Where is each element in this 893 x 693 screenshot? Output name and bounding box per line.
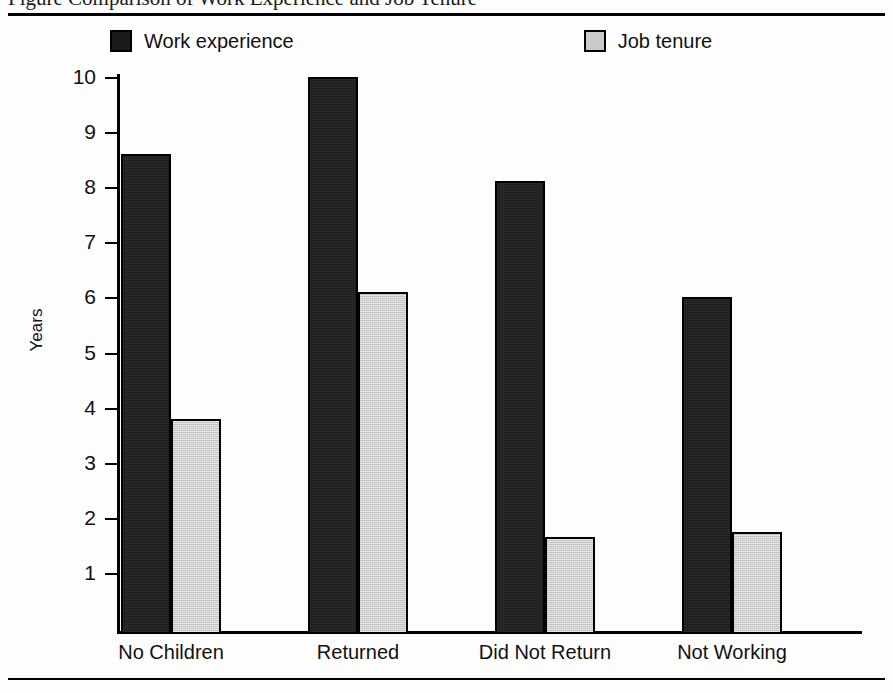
x-axis-label-not-working: Not Working [642, 641, 822, 664]
y-tick-10: 10 [45, 77, 118, 79]
x-axis-label-no-children: No Children [81, 641, 261, 664]
y-tick-label: 8 [56, 176, 96, 197]
y-tick-mark [105, 518, 118, 520]
bar-job-tenure [732, 532, 782, 634]
x-axis-label-returned: Returned [268, 641, 448, 664]
y-tick-label: 6 [56, 286, 96, 307]
y-tick-mark [105, 573, 118, 575]
y-tick-label: 5 [56, 342, 96, 363]
y-tick-label: 9 [56, 121, 96, 142]
bar-work-experience [121, 154, 171, 634]
y-tick-mark [105, 353, 118, 355]
y-tick-label: 4 [56, 397, 96, 418]
figure-page: Figure Comparison of Work Experience and… [0, 0, 893, 693]
y-tick-1: 1 [45, 573, 118, 575]
y-tick-mark [105, 132, 118, 134]
y-tick-7: 7 [45, 242, 118, 244]
y-tick-2: 2 [45, 518, 118, 520]
y-tick-6: 6 [45, 297, 118, 299]
y-tick-mark [105, 187, 118, 189]
y-tick-3: 3 [45, 463, 118, 465]
x-axis-label-did-not-return: Did Not Return [455, 641, 635, 664]
y-tick-label: 10 [56, 66, 96, 87]
bar-work-experience [308, 77, 358, 635]
bar-job-tenure [171, 419, 221, 634]
y-axis-label: Years [27, 290, 47, 370]
y-tick-label: 1 [56, 562, 96, 583]
y-tick-mark [105, 77, 118, 79]
y-tick-mark [105, 408, 118, 410]
bar-chart-plot: Years 12345678910 No ChildrenReturnedDid… [0, 0, 893, 693]
bar-job-tenure [358, 292, 408, 634]
bar-job-tenure [545, 537, 595, 634]
y-tick-mark [105, 463, 118, 465]
y-tick-mark [105, 242, 118, 244]
y-tick-4: 4 [45, 408, 118, 410]
y-tick-mark [105, 297, 118, 299]
bar-work-experience [495, 181, 545, 634]
y-tick-label: 2 [56, 507, 96, 528]
y-tick-9: 9 [45, 132, 118, 134]
y-tick-5: 5 [45, 353, 118, 355]
bar-work-experience [682, 297, 732, 634]
y-tick-label: 7 [56, 231, 96, 252]
y-tick-8: 8 [45, 187, 118, 189]
y-tick-label: 3 [56, 452, 96, 473]
